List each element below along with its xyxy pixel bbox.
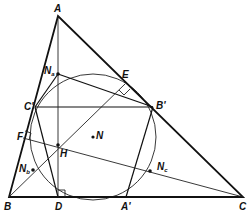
label-a-prime: A'	[120, 201, 131, 212]
point-nb	[31, 168, 35, 172]
label-b-prime: B'	[156, 100, 166, 111]
label-na: Na	[44, 65, 55, 77]
label-h: H	[60, 148, 68, 159]
nine-point-circle-diagram: A B C A' B' C' D E F H N Na Nb Nc	[0, 0, 251, 219]
point-nc	[148, 169, 152, 173]
label-d: D	[55, 201, 62, 212]
point-h	[56, 143, 60, 147]
point-na	[56, 72, 60, 76]
label-b: B	[4, 201, 11, 212]
label-e: E	[122, 69, 129, 80]
label-f: F	[17, 131, 24, 142]
label-nb: Nb	[19, 163, 30, 175]
label-a: A	[53, 3, 61, 14]
right-angle-marker-e	[119, 89, 130, 95]
segment-b1-a1	[126, 107, 153, 197]
label-nc: Nc	[157, 161, 168, 173]
label-n: N	[96, 130, 104, 141]
label-c: C	[239, 201, 247, 212]
segment-na-b1	[58, 74, 153, 107]
label-c-prime: C'	[24, 101, 34, 112]
point-n	[91, 135, 94, 138]
